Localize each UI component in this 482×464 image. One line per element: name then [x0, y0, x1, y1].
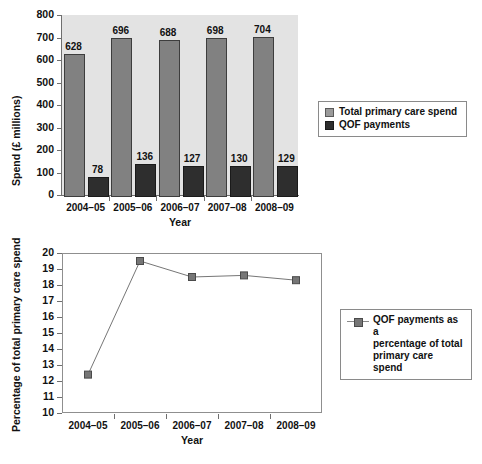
- bar-total-primary-care-spend: [111, 38, 132, 197]
- legend-item-qof-percentage: QOF payments as a percentage of total pr…: [347, 314, 465, 374]
- data-point-marker: [85, 371, 92, 378]
- bar-qof-payments: [88, 177, 109, 197]
- y-tick-label: 700: [10, 31, 54, 43]
- bar-chart-x-axis-label: Year: [0, 216, 360, 228]
- bar-value-label: 129: [266, 153, 306, 164]
- x-tick-mark: [204, 196, 205, 201]
- bar-qof-payments: [135, 164, 156, 197]
- x-tick-label: 2008–09: [244, 202, 304, 213]
- y-tick-label: 300: [10, 121, 54, 133]
- bar-chart-legend: Total primary care spend QOF payments: [318, 101, 467, 137]
- qof-payments-swatch-icon: [325, 121, 334, 130]
- y-tick-mark: [57, 195, 62, 196]
- bar-qof-payments: [230, 166, 251, 197]
- y-tick-mark: [57, 150, 62, 151]
- data-point-marker: [137, 258, 144, 265]
- bar-value-label: 696: [101, 25, 141, 36]
- line-chart: Percentage of total primary care spend 1…: [0, 232, 482, 464]
- y-tick-label: 600: [10, 53, 54, 65]
- legend-label-total-primary-care-spend: Total primary care spend: [339, 106, 457, 118]
- y-tick-mark: [57, 83, 62, 84]
- total-spend-swatch-icon: [325, 108, 334, 117]
- bar-qof-payments: [277, 166, 298, 197]
- bar-value-label: 698: [195, 25, 235, 36]
- y-tick-mark: [57, 38, 62, 39]
- y-tick-mark: [57, 173, 62, 174]
- y-tick-label: 100: [10, 166, 54, 178]
- x-tick-mark: [109, 196, 110, 201]
- bar-value-label: 704: [242, 24, 282, 35]
- y-tick-mark: [57, 128, 62, 129]
- y-tick-label: 400: [10, 98, 54, 110]
- y-tick-label: 500: [10, 76, 54, 88]
- bar-chart: Spend (£ millions) 010020030040050060070…: [0, 0, 482, 232]
- y-tick-label: 0: [10, 188, 54, 200]
- line-chart-x-axis-label: Year: [0, 434, 384, 446]
- data-point-marker: [241, 272, 248, 279]
- line-square-marker-icon: [347, 315, 369, 327]
- bar-total-primary-care-spend: [206, 38, 227, 197]
- bar-value-label: 628: [54, 41, 94, 52]
- x-tick-mark: [156, 196, 157, 201]
- legend-label-qof-percentage: QOF payments as a percentage of total pr…: [373, 314, 465, 374]
- legend-item-qof-payments: QOF payments: [325, 119, 460, 131]
- bar-total-primary-care-spend: [159, 40, 180, 197]
- y-tick-label: 800: [10, 8, 54, 20]
- y-tick-label: 200: [10, 143, 54, 155]
- line-chart-legend: QOF payments as a percentage of total pr…: [340, 309, 472, 380]
- bar-qof-payments: [183, 166, 204, 197]
- x-tick-mark: [251, 196, 252, 201]
- y-tick-mark: [57, 105, 62, 106]
- y-tick-mark: [57, 60, 62, 61]
- legend-label-qof-payments: QOF payments: [339, 119, 410, 131]
- data-point-marker: [293, 277, 300, 284]
- bar-total-primary-care-spend: [253, 37, 274, 197]
- figure-container: Spend (£ millions) 010020030040050060070…: [0, 0, 482, 464]
- legend-item-total-primary-care-spend: Total primary care spend: [325, 106, 460, 118]
- y-tick-mark: [57, 15, 62, 16]
- bar-total-primary-care-spend: [64, 54, 85, 197]
- data-point-marker: [189, 274, 196, 281]
- bar-value-label: 688: [148, 27, 188, 38]
